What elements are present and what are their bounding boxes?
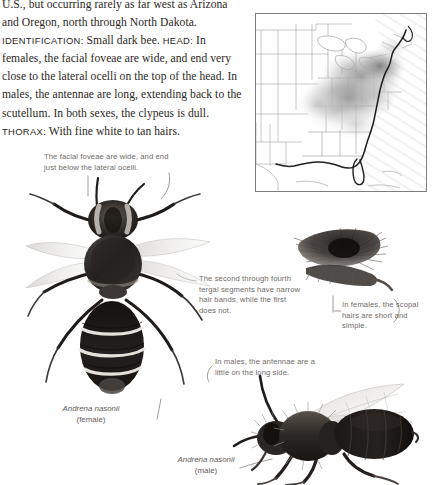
- section-heading-inline: Head:: [163, 35, 193, 46]
- caption-female-species: Andrena nasonii: [33, 404, 149, 415]
- body-run: U.S., but occurring rarely as far west a…: [2, 0, 228, 29]
- caption-female: Andrena nasonii (female): [33, 404, 149, 426]
- specimen-female-dorsal: [24, 176, 214, 404]
- section-heading-inline: Thorax:: [2, 126, 46, 137]
- section-heading-inline: Identification:: [2, 35, 84, 46]
- caption-male-species: Andrena nasonii: [148, 455, 264, 466]
- annotation-scopal-hairs: In females, the scopal hairs are short a…: [342, 300, 428, 332]
- annotation-facial-foveae: The facial foveae are wide, and end just…: [44, 152, 174, 173]
- body-run: Small dark bee.: [84, 34, 163, 47]
- figure-page: differentiated from other species in the…: [0, 0, 436, 485]
- distribution-map: [255, 13, 427, 192]
- caption-male: Andrena nasonii (male): [148, 455, 264, 477]
- caption-female-sex: (female): [33, 415, 149, 426]
- body-text: U.S., but occurring rarely as far west a…: [2, 0, 246, 141]
- caption-male-sex: (male): [148, 466, 264, 477]
- body-paragraph: U.S., but occurring rarely as far west a…: [2, 0, 246, 141]
- body-run: With fine white to tan hairs.: [46, 125, 180, 138]
- specimen-scopa-detail: [286, 226, 394, 298]
